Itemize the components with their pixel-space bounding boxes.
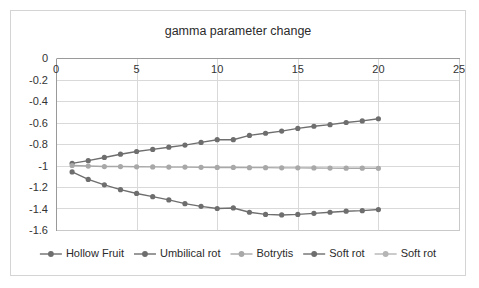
y-axis-tick-labels: 0-0.2-0.4-0.6-0.8-1-1.2-1.4-1.6 [29,52,48,236]
data-point-marker [247,133,252,138]
data-point-marker [215,165,220,170]
data-point-marker [360,166,365,171]
data-point-marker [360,118,365,123]
y-tick-label: -1.6 [29,224,48,236]
data-point-marker [198,165,203,170]
legend-item[interactable]: Umbilical rot [134,247,221,259]
data-point-marker [344,120,349,125]
legend-item[interactable]: Soft rot [375,247,436,259]
legend-marker-icon [48,251,54,257]
data-point-marker [102,155,107,160]
y-tick-label: -0.6 [29,117,48,129]
data-point-marker [263,165,268,170]
data-point-marker [86,177,91,182]
data-point-marker [134,191,139,196]
x-tick-label: 15 [292,63,304,75]
legend-label: Hollow Fruit [66,247,124,259]
series-umbilical-rot [70,169,381,217]
data-point-marker [86,163,91,168]
data-point-marker [311,211,316,216]
legend-item[interactable]: Botrytis [230,247,293,259]
data-point-marker [166,145,171,150]
legend-label: Soft rot [401,247,436,259]
data-point-marker [182,165,187,170]
legend-label: Umbilical rot [160,247,221,259]
data-point-marker [344,166,349,171]
data-point-marker [118,187,123,192]
data-point-marker [215,206,220,211]
y-tick-label: -0.4 [29,95,48,107]
legend-marker-icon [239,251,245,257]
chart-legend: Hollow FruitUmbilical rotBotrytisSoft ro… [40,247,436,259]
data-point-marker [295,165,300,170]
data-point-marker [327,122,332,127]
data-point-marker [70,163,75,168]
data-point-marker [327,165,332,170]
data-point-marker [182,201,187,206]
x-axis-tick-labels: 0510152025 [53,63,465,75]
data-point-marker [150,194,155,199]
data-point-marker [263,131,268,136]
data-point-marker [166,165,171,170]
legend-marker-icon [142,251,148,257]
data-point-marker [102,182,107,187]
legend-item[interactable]: Hollow Fruit [40,247,124,259]
data-point-marker [376,207,381,212]
x-tick-label: 20 [372,63,384,75]
data-point-marker [376,116,381,121]
data-point-marker [150,147,155,152]
x-tick-label: 10 [211,63,223,75]
legend-label: Botrytis [256,247,293,259]
data-point-marker [279,129,284,134]
gridlines [56,58,460,231]
x-tick-label: 25 [453,63,465,75]
data-point-marker [86,158,91,163]
legend-marker-icon [311,251,317,257]
data-point-marker [166,197,171,202]
x-tick-label: 0 [53,63,59,75]
data-point-marker [376,166,381,171]
data-point-marker [150,164,155,169]
data-point-marker [311,165,316,170]
data-point-marker [231,137,236,142]
legend-marker-icon [383,251,389,257]
data-point-marker [231,205,236,210]
y-tick-label: -0.8 [29,138,48,150]
data-point-marker [263,212,268,217]
y-tick-label: -1 [38,160,48,172]
data-point-marker [102,164,107,169]
data-point-marker [118,164,123,169]
data-point-marker [215,137,220,142]
chart-container: gamma parameter change 0-0.2-0.4-0.6-0.8… [10,10,466,276]
data-point-marker [231,165,236,170]
data-point-marker [247,165,252,170]
data-point-marker [327,210,332,215]
y-tick-label: 0 [42,52,48,64]
data-point-marker [279,165,284,170]
data-point-marker [198,204,203,209]
data-point-marker [360,208,365,213]
data-point-marker [70,169,75,174]
chart-title: gamma parameter change [165,24,312,38]
data-point-marker [295,126,300,131]
gamma-parameter-change-chart: gamma parameter change 0-0.2-0.4-0.6-0.8… [11,11,465,275]
data-point-marker [344,209,349,214]
data-point-marker [247,210,252,215]
x-tick-label: 5 [134,63,140,75]
data-point-marker [311,124,316,129]
data-point-marker [134,149,139,154]
data-point-marker [295,212,300,217]
legend-item[interactable]: Soft rot [303,247,364,259]
data-point-marker [182,142,187,147]
legend-label: Soft rot [329,247,364,259]
data-point-marker [198,140,203,145]
y-tick-label: -1.4 [29,203,48,215]
data-point-marker [118,152,123,157]
y-tick-label: -0.2 [29,74,48,86]
data-point-marker [134,164,139,169]
y-tick-label: -1.2 [29,181,48,193]
data-point-marker [279,212,284,217]
